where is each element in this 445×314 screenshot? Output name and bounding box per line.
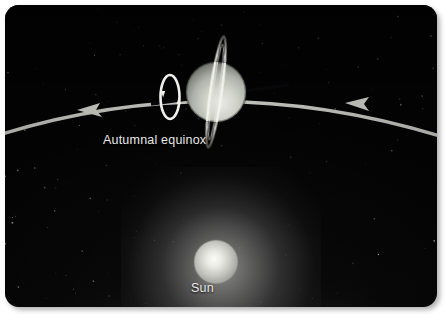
autumnal-equinox-label: Autumnal equinox [103,133,206,147]
rotation-direction-indicator [161,75,181,119]
astronomy-diagram: Autumnal equinox Sun [0,0,445,314]
sun-label: Sun [191,281,214,295]
space-scene-panel: Autumnal equinox Sun [5,5,437,307]
diagram-vectors [5,5,437,307]
orbit-arrow-right-icon [345,97,369,111]
sun-body-group [194,240,238,284]
rotation-ellipse [161,75,180,119]
